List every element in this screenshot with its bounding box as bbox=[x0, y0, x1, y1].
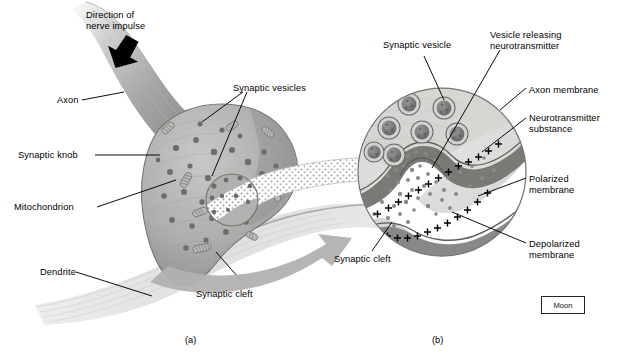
credit-box: Moon bbox=[541, 296, 585, 314]
label-axon: Axon bbox=[57, 95, 79, 106]
synapse-figure: Direction of nerve impulse Axon Synaptic… bbox=[0, 0, 620, 357]
label-direction-of-nerve-impulse: Direction of nerve impulse bbox=[86, 10, 145, 33]
label-mitochondrion: Mitochondrion bbox=[14, 202, 74, 213]
panel-b-caption: (b) bbox=[432, 335, 443, 345]
magnified-region-circle bbox=[206, 174, 258, 226]
label-axon-membrane: Axon membrane bbox=[529, 85, 599, 96]
synapse-illustration bbox=[0, 0, 620, 357]
panel-a-caption: (a) bbox=[185, 335, 196, 345]
label-synaptic-cleft-b: Synaptic cleft bbox=[334, 254, 391, 265]
label-synaptic-vesicles: Synaptic vesicles bbox=[233, 83, 306, 94]
label-polarized-membrane: Polarized membrane bbox=[529, 174, 574, 197]
label-synaptic-vesicle: Synaptic vesicle bbox=[383, 40, 451, 51]
label-depolarized-membrane: Depolarized membrane bbox=[529, 239, 580, 262]
label-synaptic-cleft-a: Synaptic cleft bbox=[196, 289, 253, 300]
label-neurotransmitter-substance: Neurotransmitter substance bbox=[529, 113, 600, 136]
label-dendrite: Dendrite bbox=[40, 267, 76, 278]
label-synaptic-knob: Synaptic knob bbox=[18, 150, 78, 161]
label-vesicle-releasing-neurotransmitter: Vesicle releasing neurotransmitter bbox=[490, 30, 561, 53]
